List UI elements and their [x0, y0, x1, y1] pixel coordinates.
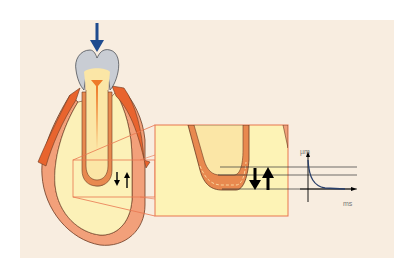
tooth-diagram: µm ms: [0, 0, 409, 269]
x-axis-label: ms: [343, 200, 353, 207]
y-axis-label: µm: [300, 148, 310, 156]
